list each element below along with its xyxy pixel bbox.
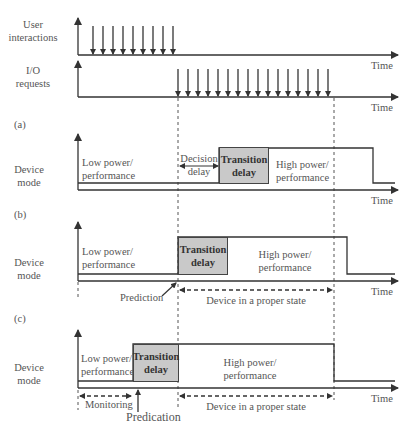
panel-b-high-power-label: High power/ performance: [250, 248, 320, 274]
panel-a-low-power-label: Low power/ performance: [82, 156, 135, 182]
user-interactions-label: User interactions: [4, 18, 62, 44]
panel-a-transition-delay-box: Transition delay: [219, 147, 269, 184]
panel-c-time-label: Time: [371, 392, 393, 405]
panel-b-device-mode-label: Device mode: [6, 256, 52, 282]
panel-c-tag: (c): [14, 312, 26, 325]
panel-c-device-mode-label: Device mode: [6, 361, 52, 387]
panel-b-prediction-label: Prediction: [120, 291, 163, 304]
panel-b-proper-state-label: Device in a proper state: [180, 294, 332, 307]
user-interaction-arrows: [93, 26, 173, 54]
panel-a-high-power-label: High power/ performance: [276, 158, 329, 184]
user-interactions-axis: [78, 18, 398, 55]
time-label-user: Time: [371, 59, 393, 72]
panel-c-high-power-label: High power/ performance: [215, 356, 285, 382]
panel-a-time-label: Time: [371, 194, 393, 207]
panel-c-proper-state-label: Device in a proper state: [180, 400, 332, 413]
panel-b-tag: (b): [14, 208, 26, 221]
panel-c-transition-delay-box: Transition delay: [133, 344, 179, 382]
panel-a-transition-delay-label: Transition delay: [221, 153, 267, 179]
panel-a-tag: (a): [14, 118, 26, 131]
panel-b-transition-delay-box: Transition delay: [178, 237, 228, 275]
panel-c-transition-delay-label: Transition delay: [133, 350, 179, 376]
panel-a-decision-delay-label: Decision delay: [179, 152, 219, 178]
panel-b-time-label: Time: [371, 285, 393, 298]
panel-b-low-power-label: Low power/ performance: [82, 245, 135, 271]
io-requests-label: I/O requests: [4, 64, 62, 90]
panel-b-transition-delay-label: Transition delay: [180, 243, 226, 269]
io-request-arrows: [178, 69, 328, 96]
panel-c-predication-label: Predication: [126, 411, 181, 424]
panel-a-device-mode-label: Device mode: [6, 163, 52, 189]
diagram-canvas: [0, 0, 415, 432]
panel-c-low-power-label: Low power/ performance: [81, 352, 134, 378]
time-label-io: Time: [371, 101, 393, 114]
